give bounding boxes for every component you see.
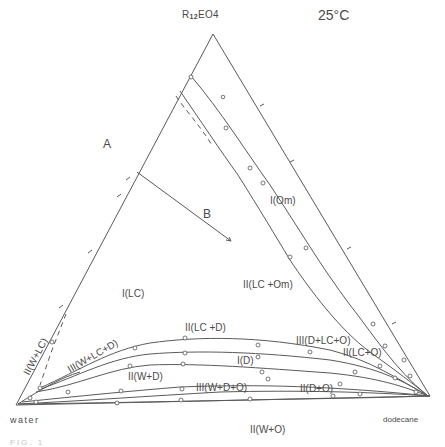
region-label-ii-w-d: II(W+D) [128, 372, 163, 382]
left-edge-ticks [59, 177, 130, 308]
region-label-ii-lc-d: II(LC +D) [185, 323, 226, 333]
boundary-om-inner [180, 91, 428, 396]
region-label-iii-d-lc-o: III(D+LC+O) [296, 336, 350, 346]
temperature-label: 25°C [318, 8, 349, 22]
figure-caption: FIG. 1 [10, 439, 44, 447]
region-label-ii-lc-om: II(LC +Om) [243, 280, 293, 290]
boundary-w-o [18, 396, 430, 404]
region-label-i-om: I(Om) [270, 196, 296, 206]
region-label-i-lc: I(LC) [122, 289, 144, 299]
component-label-surfactant: R12EO4 [182, 10, 219, 20]
boundary-om-outer [191, 76, 428, 396]
boundary-dashed [176, 96, 213, 147]
ternary-phase-diagram [0, 0, 445, 447]
vertex-label-dodecane: dodecane [383, 416, 418, 424]
path-label-b: B [203, 208, 211, 220]
region-label-ii-lc-o: II(LC+O) [343, 348, 382, 358]
path-label-a: A [103, 138, 111, 150]
region-label-ii-w-o: II(W+O) [250, 425, 285, 435]
region-label-i-d: I(D) [237, 356, 254, 366]
vertex-label-water: water [10, 416, 40, 425]
path-arrow-a-b [137, 172, 231, 241]
region-label-ii-d-o: II(D+O) [300, 384, 333, 394]
region-label-iii-w-d-o: III(W+D+O) [196, 383, 247, 393]
right-edge-ticks [260, 104, 396, 324]
